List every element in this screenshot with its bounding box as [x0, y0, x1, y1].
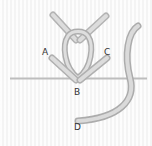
- diagram-canvas: A B C D: [0, 0, 152, 146]
- side-legs: [52, 58, 107, 80]
- top-v-stitch: [53, 15, 106, 40]
- label-d: D: [74, 123, 81, 132]
- label-a: A: [42, 48, 48, 57]
- label-c: C: [104, 48, 110, 57]
- label-b: B: [74, 88, 80, 97]
